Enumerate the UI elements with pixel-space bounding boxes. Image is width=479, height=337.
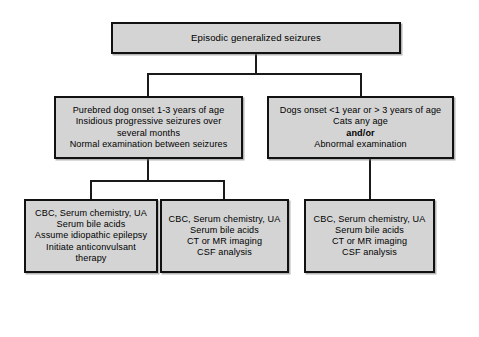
node-root-label: Episodic generalized seizures [113, 32, 399, 44]
edge-branch-right-to-leaf-3 [369, 159, 371, 200]
edge-branch-left-to-leaf-2 [223, 180, 225, 200]
node-purebred-dog-profile: Purebred dog onset 1-3 years of age Insi… [54, 96, 243, 159]
node-advanced-imaging-workup-left: CBC, Serum chemistry, UA Serum bile acid… [160, 199, 289, 273]
node-leaf-1-label: CBC, Serum chemistry, UA Serum bile acid… [26, 208, 156, 263]
node-atypical-age-or-abnormal-exam: Dogs onset <1 year or > 3 years of ageCa… [267, 96, 454, 159]
node-branch-right-line-1: Dogs onset <1 year or > 3 years of age [280, 105, 442, 115]
node-branch-left-label: Purebred dog onset 1-3 years of age Insi… [56, 105, 241, 149]
node-episodic-generalized-seizures: Episodic generalized seizures [111, 22, 401, 54]
edge-branch-left-to-leaf-1 [90, 180, 92, 200]
node-branch-right-label: Dogs onset <1 year or > 3 years of ageCa… [269, 105, 452, 149]
edge-branch-left-split-bar [90, 180, 224, 182]
edge-branch-left-stem [147, 159, 149, 181]
node-leaf-2-label: CBC, Serum chemistry, UA Serum bile acid… [162, 214, 287, 258]
node-branch-right-line-4: Abnormal examination [314, 139, 406, 149]
flowchart-diagram: Episodic generalized seizures Purebred d… [0, 0, 479, 337]
node-leaf-3-label: CBC, Serum chemistry, UA Serum bile acid… [306, 214, 433, 258]
node-advanced-imaging-workup-right: CBC, Serum chemistry, UA Serum bile acid… [304, 199, 435, 273]
node-branch-right-line-2: Cats any age [333, 116, 388, 126]
edge-root-stem [255, 53, 257, 74]
edge-root-to-branch-right [360, 73, 362, 97]
edge-root-to-branch-left [147, 73, 149, 97]
edge-root-split-bar [147, 73, 362, 75]
node-branch-right-line-3-andor: and/or [346, 128, 374, 138]
node-idiopathic-epilepsy-workup: CBC, Serum chemistry, UA Serum bile acid… [24, 199, 158, 273]
